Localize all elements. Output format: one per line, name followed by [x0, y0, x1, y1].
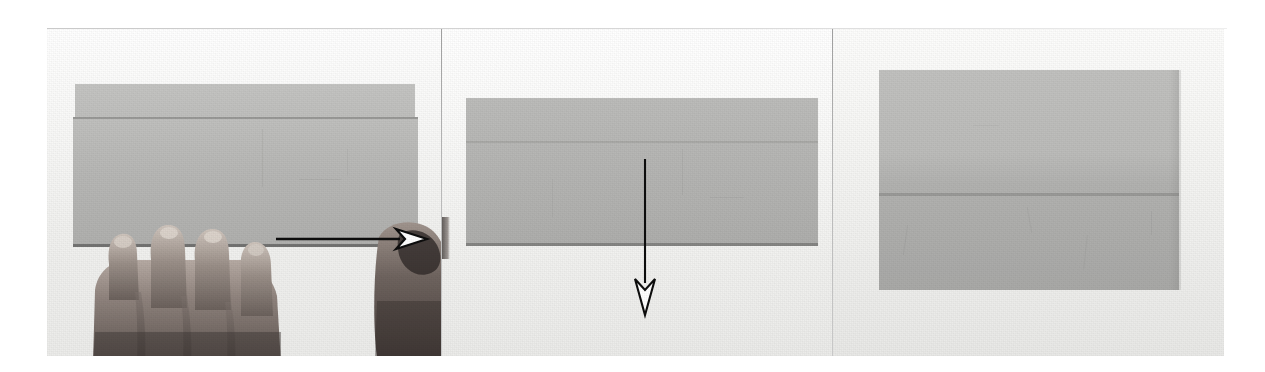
panel-1 [47, 29, 441, 356]
paper-scratch [710, 197, 744, 198]
paper-scratch [973, 125, 999, 126]
paper-scratch [262, 129, 263, 187]
paper-scratch [299, 179, 341, 180]
panel-divider-1 [441, 29, 442, 356]
panel-3 [833, 29, 1224, 356]
paper-scratch [552, 179, 553, 217]
right-arrow-annotation [272, 225, 432, 253]
paper-scratch [682, 149, 683, 195]
paper-scratch [1151, 211, 1152, 235]
paper-crease-line [73, 117, 418, 119]
down-arrow-annotation [628, 157, 662, 317]
paper-scratch [347, 149, 348, 175]
paper-secondary-crease [466, 141, 818, 143]
paper-edge-shadow [1169, 70, 1181, 290]
figure-canvas: Two hands flatten a folded strip of pape… [0, 0, 1265, 372]
paper-crease-line [879, 193, 1179, 196]
finished-folded-square [879, 70, 1179, 290]
hand-sliver [442, 217, 450, 259]
panel-divider-2 [832, 29, 833, 356]
panel-2 [442, 29, 832, 356]
